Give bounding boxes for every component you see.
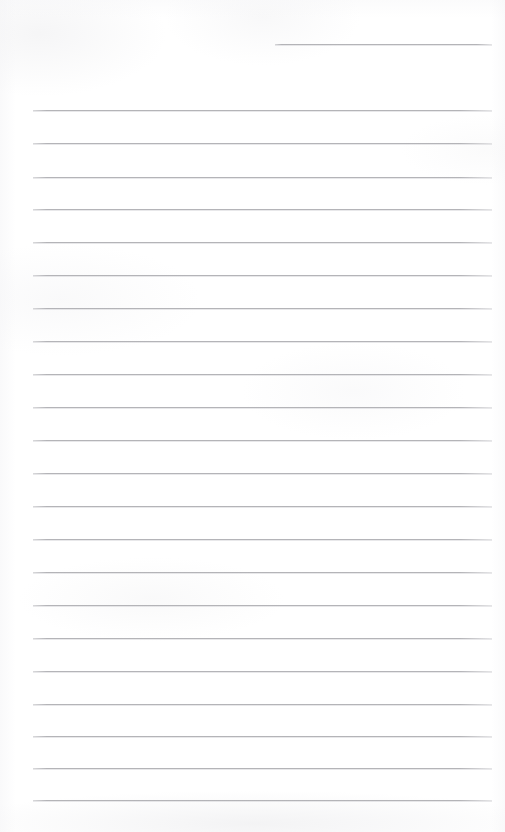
ruled-line [33, 539, 492, 540]
ruled-line [33, 341, 492, 342]
ruled-line [33, 572, 492, 573]
ruled-line [33, 800, 492, 801]
ruled-line [33, 308, 492, 309]
paper-texture [0, 0, 505, 832]
document-page [0, 0, 505, 832]
ruled-line [33, 374, 492, 375]
ruled-line [33, 638, 492, 639]
ruled-line [33, 407, 492, 408]
ruled-line [33, 605, 492, 606]
ruled-line [33, 671, 492, 672]
ruled-line [33, 177, 492, 178]
ruled-line [33, 768, 492, 769]
ruled-line [33, 242, 492, 243]
ruled-line [33, 473, 492, 474]
ruled-line [33, 506, 492, 507]
ruled-line [33, 736, 492, 737]
ruled-line [33, 110, 492, 111]
ruled-line [33, 440, 492, 441]
ruled-line [33, 209, 492, 210]
page-edge-shading [0, 0, 505, 832]
ruled-line-partial [275, 44, 492, 45]
ruled-line [33, 143, 492, 144]
ruled-line [33, 275, 492, 276]
ruled-line [33, 704, 492, 705]
